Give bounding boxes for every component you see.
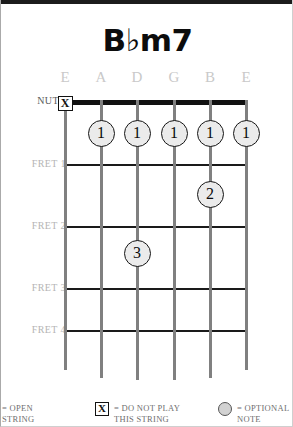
finger-marker: 1 (197, 120, 224, 147)
finger-marker: 1 (88, 120, 115, 147)
string-line (64, 100, 67, 370)
finger-marker: 1 (233, 120, 260, 147)
fret-label: FRET 3 (0, 282, 66, 294)
mute-x-box-icon: X (95, 402, 109, 416)
fret-line (65, 330, 247, 332)
finger-marker: 1 (124, 120, 151, 147)
fret-label: FRET 2 (0, 220, 66, 232)
legend-item-optional-note: = OPTIONALNOTE (218, 396, 293, 426)
fretboard-diagram: NUT FRET 1FRET 2FRET 3FRET 4 X1111123 (1, 0, 293, 380)
legend-item-open-string: = OPENSTRING (0, 396, 73, 426)
finger-marker: 3 (124, 240, 151, 267)
legend-do-not-play-text: = DO NOT PLAYTHIS STRING (114, 403, 180, 425)
legend-open-string-text: = OPENSTRING (2, 403, 35, 425)
finger-marker: 2 (197, 181, 224, 208)
finger-marker: 1 (161, 120, 188, 147)
mute-marker: X (58, 96, 73, 111)
optional-note-circle-icon (218, 402, 232, 416)
nut-label: NUT (23, 95, 59, 107)
chord-chart-page: B♭m7 EADGBE NUT FRET 1FRET 2FRET 3FRET 4… (0, 0, 293, 427)
fret-label: FRET 4 (0, 324, 66, 336)
fret-line (65, 288, 247, 290)
fret-line (65, 164, 247, 166)
legend-optional-note-text: = OPTIONALNOTE (237, 403, 289, 425)
fret-label: FRET 1 (0, 158, 66, 170)
legend: = OPENSTRING X = DO NOT PLAYTHIS STRING … (1, 396, 293, 427)
nut-line (65, 100, 247, 105)
legend-item-do-not-play: X = DO NOT PLAYTHIS STRING (95, 396, 205, 426)
fret-line (65, 226, 247, 228)
